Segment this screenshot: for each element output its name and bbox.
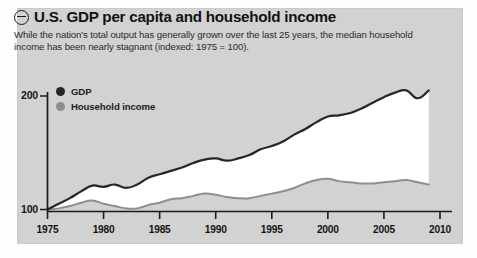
area-band-layer bbox=[48, 90, 429, 210]
x-tick-label-1985: 1985 bbox=[140, 224, 180, 235]
x-tick-label-2000: 2000 bbox=[308, 224, 348, 235]
x-tick-label-1995: 1995 bbox=[252, 224, 292, 235]
x-tick-label-2010: 2010 bbox=[420, 224, 460, 235]
y-tick-label-200: 200 bbox=[12, 89, 38, 101]
figure-root: U.S. GDP per capita and household income… bbox=[0, 0, 477, 258]
x-tick-label-2005: 2005 bbox=[364, 224, 404, 235]
x-tick-label-1980: 1980 bbox=[84, 224, 124, 235]
y-tick-label-100: 100 bbox=[12, 203, 38, 215]
x-tick-label-1975: 1975 bbox=[28, 224, 68, 235]
x-tick-label-1990: 1990 bbox=[196, 224, 236, 235]
chart-plot bbox=[0, 0, 477, 258]
gdp-income-gap-area bbox=[48, 90, 429, 210]
